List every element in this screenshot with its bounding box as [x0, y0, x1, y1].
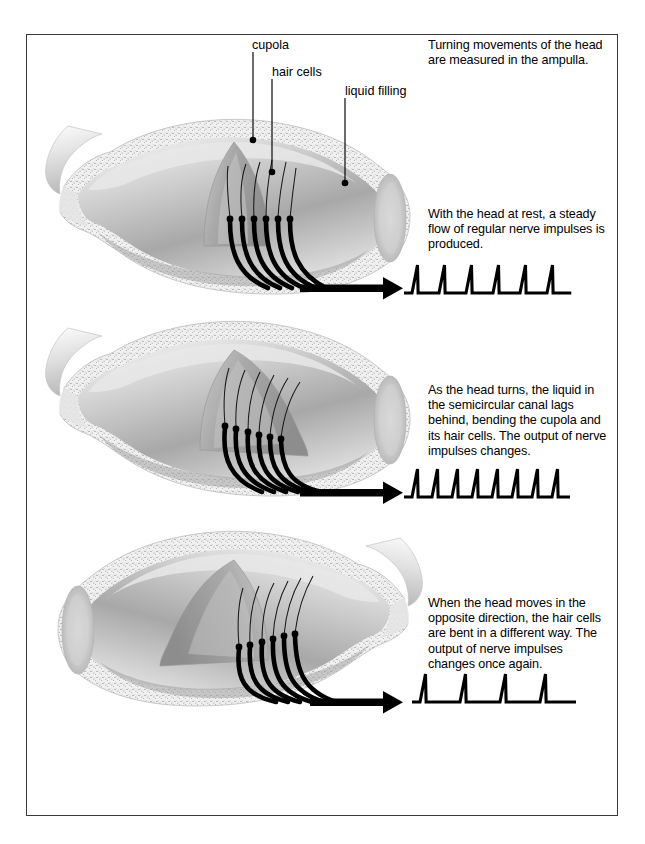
cupola-marker-dot — [250, 137, 257, 144]
caption-opposite-direction: When the head moves in the opposite dire… — [428, 596, 624, 672]
impulse-train-turning — [404, 469, 570, 497]
caption-ampulla-intro: Turning movements of the head are measur… — [428, 38, 618, 68]
label-cupola: cupola — [252, 38, 289, 52]
label-hair-cells: hair cells — [272, 65, 322, 79]
caption-head-turns: As the head turns, the liquid in the sem… — [428, 383, 624, 459]
panel-rest-illustration — [46, 119, 410, 299]
hair-cells-marker-dot — [269, 169, 276, 176]
impulse-train-rest — [404, 265, 571, 293]
panel-turning-illustration — [46, 321, 410, 504]
panel-opposite-illustration — [58, 531, 422, 713]
label-liquid-filling: liquid filling — [345, 84, 407, 98]
caption-head-at-rest: With the head at rest, a steady flow of … — [428, 207, 624, 253]
liquid-filling-marker-dot — [342, 180, 349, 187]
impulse-train-opposite — [412, 674, 576, 702]
